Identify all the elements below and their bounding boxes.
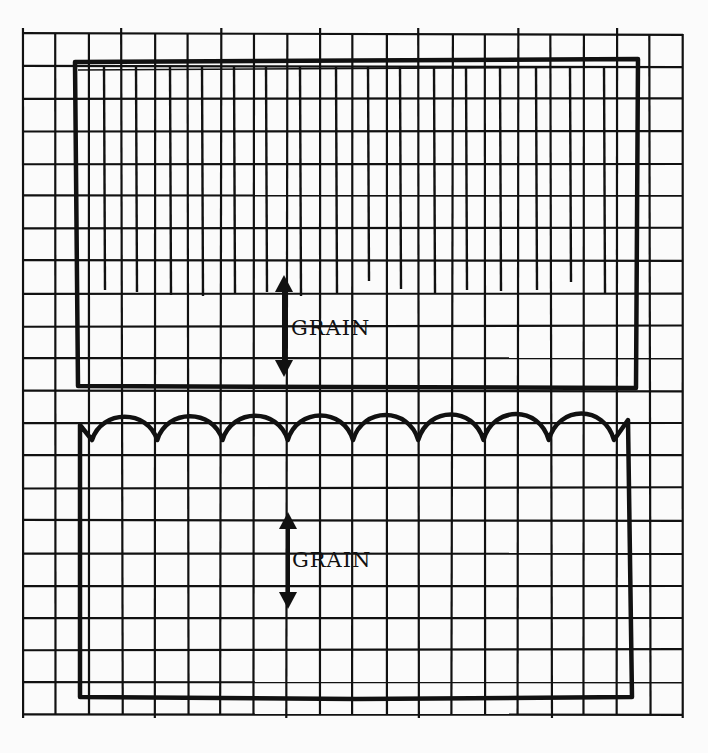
arrow-down-icon <box>279 592 297 609</box>
graph-grid <box>23 28 683 718</box>
arrow-down-icon <box>275 360 293 377</box>
fringe-thread <box>536 66 537 290</box>
arrow-up-icon <box>275 275 293 292</box>
grid-line-vertical <box>649 34 650 715</box>
grid-line-horizontal <box>23 649 683 650</box>
grid-line-horizontal <box>23 228 683 229</box>
grid-line-vertical <box>253 34 254 715</box>
fringe-thread <box>266 66 267 292</box>
diagram-svg <box>0 0 708 753</box>
grid-line-vertical <box>451 34 453 715</box>
fringe-thread <box>570 66 571 282</box>
fringe-thread <box>136 66 137 292</box>
fringe-thread <box>300 66 301 296</box>
grid-line-horizontal <box>23 520 683 521</box>
grid-line-horizontal <box>23 260 683 261</box>
grain-label-top: GRAIN <box>291 316 370 340</box>
grid-line-vertical <box>188 34 189 715</box>
grid-line-horizontal <box>23 487 683 488</box>
fringe-thread <box>202 66 203 296</box>
fringe-thread <box>170 66 171 295</box>
fringe-thread <box>104 66 105 290</box>
fringe-thread <box>400 66 401 289</box>
fringe-thread <box>604 66 605 293</box>
graph-paper-diagram: GRAIN GRAIN <box>0 0 708 753</box>
fringe-thread <box>234 66 235 294</box>
grain-label-bottom: GRAIN <box>292 548 371 572</box>
fringe-thread <box>434 66 435 293</box>
grid-line-horizontal <box>23 391 683 392</box>
grid-line-vertical <box>286 34 287 718</box>
fringe-thread <box>500 66 501 291</box>
fringe-thread <box>336 66 337 294</box>
fringe-thread <box>466 66 467 290</box>
grid-line-vertical <box>550 34 552 718</box>
fringe-thread <box>368 66 369 281</box>
